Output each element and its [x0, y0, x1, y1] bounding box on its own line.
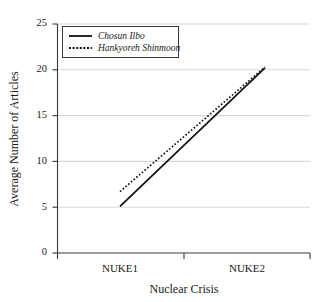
y-tick-label-15: 15: [37, 109, 48, 120]
series-line-hankyoreh-shinmoon: [120, 67, 265, 192]
x-axis-title: Nuclear Crisis: [150, 282, 219, 296]
y-tick-label-20: 20: [37, 63, 48, 74]
y-tick-label-25: 25: [37, 17, 48, 28]
y-tick-label-5: 5: [42, 201, 47, 212]
series-line-chosun-ilbo: [120, 68, 265, 206]
legend-label-chosun-ilbo: Chosun Ilbo: [98, 31, 145, 41]
y-tick-marks: [53, 24, 58, 253]
x-tick-label-nuke1: NUKE1: [102, 262, 138, 274]
y-tick-label-10: 10: [37, 155, 48, 166]
x-tick-label-nuke2: NUKE2: [229, 262, 265, 274]
x-tick-marks: [58, 253, 311, 259]
legend-label-hankyoreh-shinmoon: Hankyoreh Shinmoon: [97, 43, 180, 53]
y-axis-title: Average Number of Articles: [7, 71, 21, 207]
interaction-line-chart: 25 20 15 10 5 0 NUKE1 NUKE2 Nuclear Cris…: [0, 0, 324, 302]
y-tick-label-0: 0: [42, 246, 47, 257]
chart-figure: 25 20 15 10 5 0 NUKE1 NUKE2 Nuclear Cris…: [0, 0, 324, 302]
chart-legend: Chosun Ilbo Hankyoreh Shinmoon: [63, 27, 181, 58]
